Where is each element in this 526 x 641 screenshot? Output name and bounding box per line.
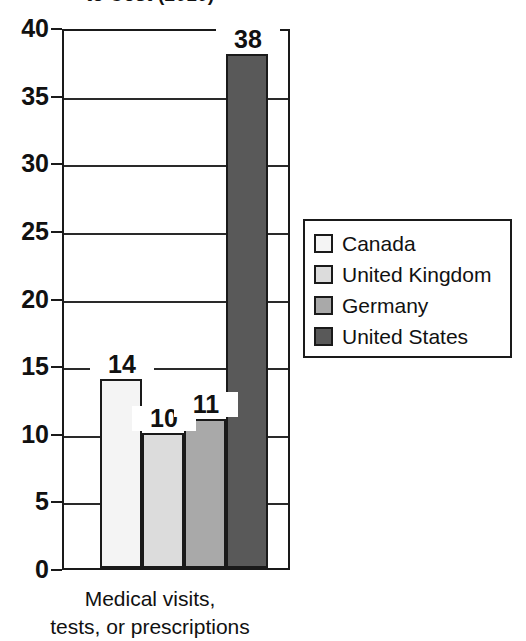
bar-value-label: 11 [174, 392, 238, 417]
legend-item-label: Canada [342, 233, 416, 254]
legend-swatch-icon [314, 234, 333, 253]
y-axis-tick-mark [51, 163, 62, 165]
y-axis-tick-mark [51, 96, 62, 98]
y-axis-tick-label: 15 [5, 354, 49, 379]
x-axis-caption-line-1: Medical visits, [0, 585, 300, 613]
legend-item-label: United Kingdom [342, 264, 491, 285]
y-axis-tick-mark [51, 366, 62, 368]
y-axis-tick-mark [51, 231, 62, 233]
bar-united-kingdom[interactable] [142, 433, 184, 568]
bar-united-states[interactable] [226, 54, 268, 568]
y-axis-tick-label: 25 [5, 219, 49, 244]
chart-legend: CanadaUnited KingdomGermanyUnited States [303, 219, 512, 358]
bar-value-label: 14 [90, 352, 154, 377]
plot-area [62, 29, 290, 570]
y-axis-tick-label: 20 [5, 287, 49, 312]
y-axis-tick-mark [51, 299, 62, 301]
legend-item-label: United States [342, 326, 468, 347]
legend-swatch-icon [314, 265, 333, 284]
x-axis-caption-line-2: tests, or prescriptions [0, 613, 300, 641]
y-axis-tick-label: 30 [5, 151, 49, 176]
x-axis-caption: Medical visits, tests, or prescriptions [0, 585, 300, 641]
y-axis-tick-mark [51, 434, 62, 436]
y-axis-tick-label: 0 [5, 557, 49, 582]
y-axis-tick-mark [51, 501, 62, 503]
legend-item-germany[interactable]: Germany [314, 290, 510, 321]
bar-value-label: 38 [216, 27, 280, 52]
y-axis-tick-mark [51, 569, 62, 571]
legend-item-canada[interactable]: Canada [314, 228, 510, 259]
legend-swatch-icon [314, 296, 333, 315]
legend-item-united-states[interactable]: United States [314, 321, 510, 352]
y-axis-tick-label: 40 [5, 16, 49, 41]
y-axis-tick-label: 10 [5, 422, 49, 447]
legend-swatch-icon [314, 327, 333, 346]
legend-item-label: Germany [342, 295, 428, 316]
legend-item-united-kingdom[interactable]: United Kingdom [314, 259, 510, 290]
y-axis-tick-mark [51, 28, 62, 30]
y-axis-tick-label: 35 [5, 84, 49, 109]
y-axis: 4035302520151050 [0, 0, 49, 641]
bar-germany[interactable] [184, 419, 226, 568]
y-axis-tick-label: 5 [5, 489, 49, 514]
